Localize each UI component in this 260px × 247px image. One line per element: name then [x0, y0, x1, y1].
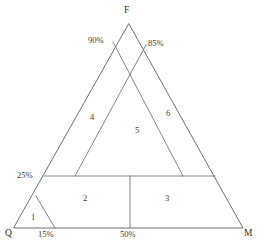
region-label-6: 6 [166, 109, 170, 118]
field-1-boundary [36, 196, 55, 228]
outer-triangle [14, 24, 243, 228]
region-label-4: 4 [90, 113, 94, 122]
divider-line-from-85-percent [75, 45, 146, 176]
tick-label-90-percent: 90% [88, 36, 104, 45]
tick-label-15-percent: 15% [38, 230, 54, 239]
ternary-diagram-figure: F Q M 90% 85% 25% 15% 50% 1 2 3 4 5 6 [0, 0, 260, 247]
region-label-5: 5 [135, 126, 139, 135]
region-label-2: 2 [83, 194, 87, 203]
tick-label-85-percent: 85% [148, 39, 164, 48]
vertex-label-m: M [244, 229, 252, 239]
tick-label-50-percent: 50% [120, 230, 136, 239]
region-label-3: 3 [165, 194, 169, 203]
region-label-1: 1 [31, 213, 35, 222]
divider-line-from-90-percent [113, 42, 183, 176]
vertex-label-q: Q [5, 229, 12, 239]
ternary-diagram-canvas [0, 0, 260, 247]
vertex-label-f: F [124, 6, 129, 16]
tick-label-25-percent: 25% [17, 171, 33, 180]
